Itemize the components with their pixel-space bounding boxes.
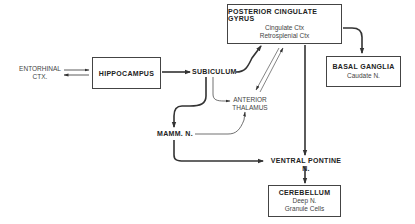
entorhinal-cortex-label: ENTORHINAL CTX.	[18, 65, 62, 81]
anterior-thalamus-label: ANTERIOR THALAMUS	[228, 96, 272, 112]
posterior-cingulate-box: POSTERIOR CINGULATE GYRUS Cingulate Ctx …	[227, 4, 342, 44]
posterior-cingulate-title: POSTERIOR CINGULATE GYRUS	[228, 8, 341, 22]
cingulate-ctx-label: Cingulate Ctx	[265, 24, 304, 32]
retrosplenial-ctx-label: Retrosplenial Ctx	[260, 32, 310, 40]
cerebellum-box: CEREBELLUM Deep N. Granule Cells	[268, 185, 341, 217]
hippocampus-box: HIPPOCAMPUS	[92, 57, 161, 89]
granule-cells-label: Granule Cells	[285, 205, 324, 213]
ventral-pontine-label: VENTRAL PONTINE N.	[266, 157, 346, 173]
subiculum-to-mammillary-arrow	[174, 77, 206, 127]
cingulate-to-basal-ganglia-arrow	[343, 28, 362, 53]
hippocampus-title: HIPPOCAMPUS	[99, 70, 154, 77]
mammillary-to-thalamus-arrow	[195, 112, 245, 134]
anterior-thalamus-line2: THALAMUS	[228, 104, 272, 112]
cerebellum-title: CEREBELLUM	[279, 189, 331, 196]
mammillary-nucleus-label: MAMM. N.	[156, 130, 194, 138]
thalamus-to-cingulate-arrow	[260, 48, 283, 92]
mammillary-to-pontine-arrow	[174, 140, 263, 161]
entorhinal-line2: CTX.	[18, 73, 62, 81]
caudate-n-label: Caudate N.	[347, 72, 380, 80]
connection-arrows	[0, 0, 415, 224]
anterior-thalamus-line1: ANTERIOR	[228, 96, 272, 104]
basal-ganglia-box: BASAL GANGLIA Caudate N.	[326, 56, 401, 87]
entorhinal-line1: ENTORHINAL	[18, 65, 62, 73]
basal-ganglia-title: BASAL GANGLIA	[332, 63, 394, 70]
subiculum-label: SUBICULUM	[192, 68, 236, 76]
cingulate-to-thalamus-arrow	[256, 48, 279, 90]
deep-n-label: Deep N.	[293, 197, 317, 205]
subiculum-to-cingulate-arrow	[236, 46, 261, 72]
